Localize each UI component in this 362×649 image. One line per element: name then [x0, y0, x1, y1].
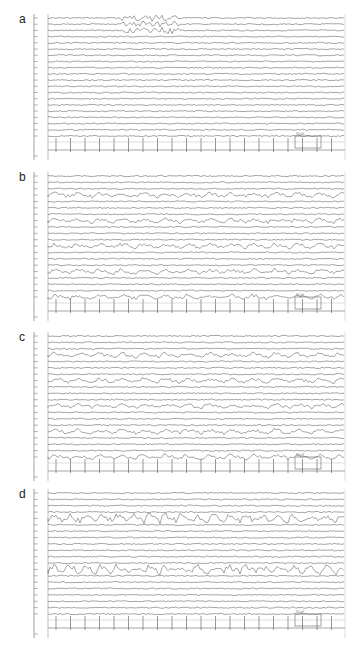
eeg-panel-d: d 50 µV	[0, 487, 362, 642]
svg-text:50 µV: 50 µV	[296, 293, 304, 297]
svg-text:50 µV: 50 µV	[296, 132, 304, 136]
eeg-traces-b: 50 µV	[0, 170, 362, 325]
eeg-panel-b: b 50 µV	[0, 170, 362, 325]
svg-text:50 µV: 50 µV	[296, 453, 304, 457]
eeg-panel-a: a 50 µV	[0, 12, 362, 164]
eeg-traces-c: 50 µV	[0, 330, 362, 485]
svg-text:50 µV: 50 µV	[296, 610, 304, 614]
eeg-panel-c: c 50 µV	[0, 330, 362, 485]
eeg-traces-a: 50 µV	[0, 12, 362, 164]
eeg-traces-d: 50 µV	[0, 487, 362, 642]
